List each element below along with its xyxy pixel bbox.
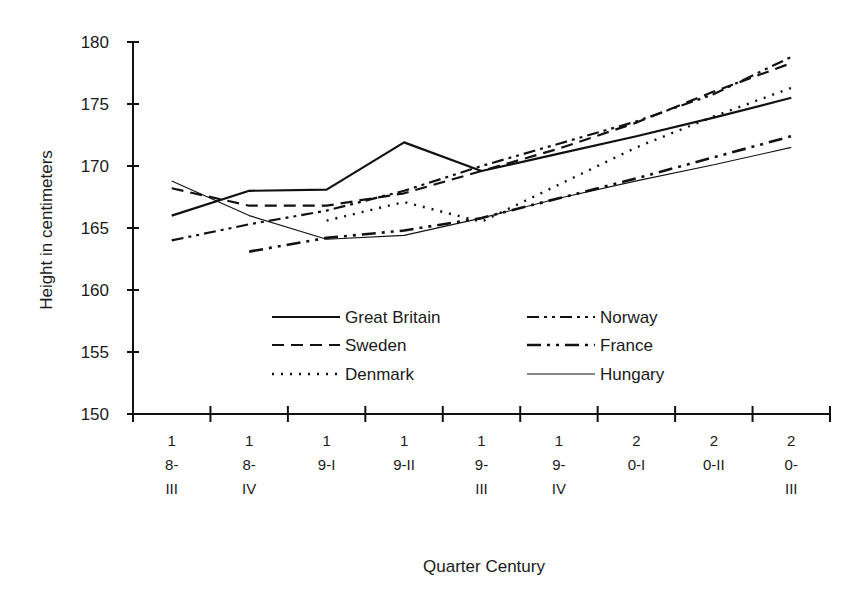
x-tick-label: 1: [245, 432, 253, 449]
x-tick-label: 9-I: [318, 456, 336, 473]
x-tick-label: III: [785, 480, 798, 497]
legend-item-france: France: [527, 336, 653, 355]
x-tick-label: 1: [400, 432, 408, 449]
series-line-sweden: [172, 63, 792, 206]
series-line-norway: [172, 57, 792, 241]
legend-label: Sweden: [345, 336, 406, 355]
y-axis-ticks: 150155160165170175180: [81, 33, 139, 424]
legend-item-norway: Norway: [527, 308, 658, 327]
x-tick-label: 1: [555, 432, 563, 449]
x-tick-label: 1: [477, 432, 485, 449]
x-axis-ticks: 18-III18-IV19-I19-II19-III19-IV20-I20-II…: [133, 406, 830, 497]
series-lines: [172, 57, 792, 252]
series-line-france: [249, 136, 791, 251]
x-tick-label: 1: [322, 432, 330, 449]
legend-label: Hungary: [600, 365, 665, 384]
axes: [133, 42, 830, 414]
x-tick-label: 0-II: [703, 456, 725, 473]
x-tick-label: 1: [168, 432, 176, 449]
x-tick-label: III: [165, 480, 178, 497]
legend-label: Denmark: [345, 365, 414, 384]
legend-item-hungary: Hungary: [527, 365, 665, 384]
x-tick-label: 9-: [552, 456, 565, 473]
y-tick-label: 155: [81, 343, 109, 362]
x-tick-label: 2: [787, 432, 795, 449]
x-tick-label: 8-: [165, 456, 178, 473]
y-tick-label: 165: [81, 219, 109, 238]
y-tick-label: 150: [81, 405, 109, 424]
legend-item-sweden: Sweden: [272, 336, 406, 355]
x-tick-label: 9-II: [393, 456, 415, 473]
x-tick-label: 9-: [475, 456, 488, 473]
x-tick-label: 2: [632, 432, 640, 449]
series-line-great-britain: [172, 98, 792, 216]
legend: Great BritainNorwaySwedenFranceDenmarkHu…: [272, 308, 665, 384]
legend-label: Great Britain: [345, 308, 440, 327]
legend-item-denmark: Denmark: [272, 365, 414, 384]
y-tick-label: 160: [81, 281, 109, 300]
y-tick-label: 175: [81, 95, 109, 114]
x-tick-label: III: [475, 480, 488, 497]
legend-label: France: [600, 336, 653, 355]
x-tick-label: 2: [710, 432, 718, 449]
legend-label: Norway: [600, 308, 658, 327]
x-tick-label: 8-: [242, 456, 255, 473]
legend-item-great-britain: Great Britain: [272, 308, 440, 327]
x-tick-label: 0-I: [628, 456, 646, 473]
x-axis-label: Quarter Century: [423, 557, 545, 576]
series-line-denmark: [327, 88, 792, 222]
x-tick-label: IV: [552, 480, 566, 497]
y-axis-label: Height in centimeters: [37, 150, 56, 310]
y-tick-label: 170: [81, 157, 109, 176]
line-chart: 150155160165170175180 18-III18-IV19-I19-…: [0, 0, 863, 608]
y-tick-label: 180: [81, 33, 109, 52]
x-tick-label: IV: [242, 480, 256, 497]
x-tick-label: 0-: [785, 456, 798, 473]
